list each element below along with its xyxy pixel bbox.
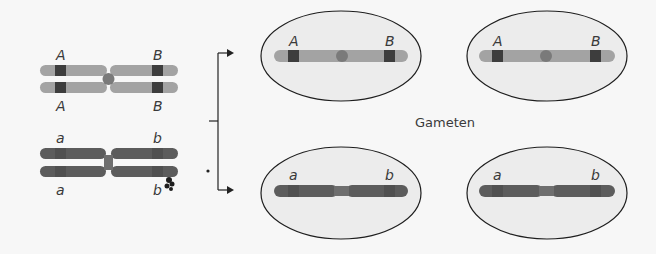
allele-label: b (385, 167, 394, 183)
allele-label: a (56, 182, 65, 198)
gene-band-A (288, 50, 299, 62)
gamete-cell-bottom-right: a b (467, 147, 627, 239)
gene-band-a (55, 166, 66, 177)
gamete-cell-top-left: A B (261, 11, 421, 101)
centromere (104, 155, 113, 170)
allele-label: b (153, 130, 162, 146)
arrow-right-icon (227, 186, 234, 194)
chromatid-left-arm (40, 82, 107, 93)
centromere (334, 186, 349, 196)
centromere (540, 50, 552, 62)
gene-band-B (152, 82, 163, 93)
gene-band-a (55, 148, 66, 159)
allele-label: b (153, 182, 162, 198)
division-bracket (209, 53, 228, 190)
gene-band-b (590, 185, 601, 197)
gene-band-a (492, 185, 503, 197)
chromatid-left-arm (40, 148, 106, 159)
allele-label: B (591, 33, 601, 49)
allele-label: A (55, 98, 66, 114)
smudge-mark (165, 177, 175, 191)
gene-band-b (152, 148, 163, 159)
dot-mark (206, 169, 209, 172)
chromosome-pair-ab: a b a b (40, 130, 178, 198)
gamete-cell-top-right: A B (467, 11, 627, 101)
gene-band-a (288, 185, 299, 197)
chromosome-right-arm (551, 185, 615, 197)
gamete-cell-bottom-left: a b (261, 147, 421, 239)
gametes-label: Gameten (415, 115, 475, 130)
arrow-right-icon (227, 49, 234, 57)
chromatid-left-arm (40, 166, 106, 177)
allele-label: a (493, 167, 502, 183)
centromere (336, 50, 348, 62)
gene-band-A (492, 50, 503, 62)
chromosome-left-arm (479, 185, 543, 197)
allele-label: a (56, 130, 65, 146)
chromosome-pair-AB: A B A B (40, 47, 178, 114)
chromatid-right-arm (110, 65, 178, 76)
allele-label: A (55, 47, 66, 63)
centromere (103, 73, 115, 85)
allele-label: A (492, 33, 503, 49)
chromatid-right-arm (111, 148, 178, 159)
chromosome-right-arm (346, 185, 408, 197)
gene-band-B (152, 65, 163, 76)
gene-band-b (384, 185, 395, 197)
gamete-diagram: A B A B a b a b (0, 0, 656, 254)
centromere (539, 186, 554, 196)
gene-band-A (55, 65, 66, 76)
allele-label: a (289, 167, 298, 183)
gene-band-B (384, 50, 395, 62)
gene-band-A (55, 82, 66, 93)
allele-label: B (153, 47, 163, 63)
chromatid-right-arm (110, 82, 178, 93)
allele-label: B (153, 98, 163, 114)
gene-band-b (152, 166, 163, 177)
allele-label: b (591, 167, 600, 183)
gene-band-B (590, 50, 601, 62)
allele-label: A (288, 33, 299, 49)
allele-label: B (385, 33, 395, 49)
chromosome-left-arm (274, 185, 338, 197)
chromatid-left-arm (40, 65, 107, 76)
chromatid-right-arm (111, 166, 178, 177)
